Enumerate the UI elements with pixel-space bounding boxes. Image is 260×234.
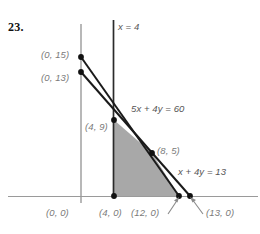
point-0-13 [78, 69, 84, 75]
point-label-0-15: (0, 15) [41, 49, 69, 60]
point-8-5 [149, 150, 155, 156]
point-4-9 [111, 117, 117, 123]
point-label-12-0: (12, 0) [131, 207, 159, 218]
point-12-0 [176, 193, 182, 199]
problem-number: 23. [8, 20, 24, 35]
leader-arrow-12-0 [168, 197, 179, 214]
point-label-8-5: (8, 5) [157, 145, 180, 156]
point-label-4-0: (4, 0) [99, 207, 122, 218]
point-label-4-9: (4, 9) [85, 121, 108, 132]
point-label-0-0: (0, 0) [46, 207, 69, 218]
figure-container: 23. x = 4 5x + 4y = 60 x + 4y = 13 (0, 1… [0, 0, 260, 234]
equation-label-x-equals-4: x = 4 [118, 21, 139, 32]
equation-label-line2: x + 4y = 13 [178, 166, 226, 177]
point-label-13-0: (13, 0) [206, 207, 234, 218]
equation-label-line1: 5x + 4y = 60 [131, 103, 185, 114]
point-4-0 [111, 193, 117, 199]
point-label-0-13: (0, 13) [41, 72, 69, 83]
graph-canvas [0, 0, 260, 234]
shaded-feasible-region [114, 120, 179, 196]
point-0-15 [78, 54, 84, 60]
leader-arrow-13-0 [190, 197, 203, 214]
